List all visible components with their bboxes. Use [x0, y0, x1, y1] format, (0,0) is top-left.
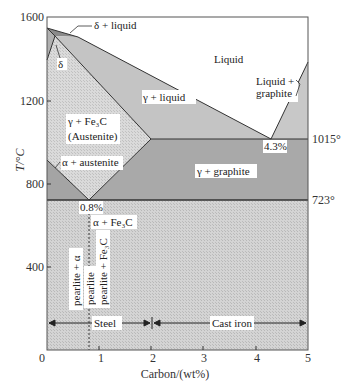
- y-tick-1200: 1200: [20, 94, 44, 108]
- y-tick-400: 400: [26, 260, 44, 274]
- label-liquid-graphite-line2: graphite: [256, 87, 292, 99]
- label-cast-iron: Cast iron: [212, 317, 253, 329]
- label-delta: δ: [58, 58, 63, 70]
- label-gamma-liquid: γ + liquid: [142, 91, 186, 103]
- y-axis-label: T/°C: [13, 148, 27, 172]
- x-tick-1: 1: [98, 351, 104, 365]
- x-tick-2: 2: [150, 351, 156, 365]
- y-axis: 1600 1200 800 400: [20, 10, 51, 274]
- label-pearlite-alpha: pearlite + α: [70, 255, 82, 306]
- label-delta-liquid: δ + liquid: [94, 19, 137, 31]
- label-liquid-graphite-line1: Liquid +: [256, 75, 294, 87]
- x-axis-label: Carbon/(wt%): [141, 367, 210, 381]
- x-tick-4: 4: [254, 351, 260, 365]
- label-4-3-percent: 4.3%: [264, 140, 287, 152]
- x-tick-3: 3: [201, 351, 207, 365]
- label-austenite-line2: (Austenite): [68, 130, 118, 143]
- label-pearlite-fe3c: pearlite + Fe₃C: [97, 238, 109, 305]
- label-0-8-percent: 0.8%: [80, 201, 103, 213]
- phase-diagram: 1600 1200 800 400 T/°C 0 1 2 3 4 5 Carbo…: [0, 0, 345, 384]
- annotation-723: 723°: [312, 193, 335, 207]
- annotation-1015: 1015°: [312, 132, 341, 146]
- label-liquid: Liquid: [214, 53, 244, 65]
- label-alpha-fe3c: α + Fe₃C: [93, 216, 133, 228]
- y-tick-1600: 1600: [20, 10, 44, 24]
- label-pearlite: pearlite: [84, 272, 96, 305]
- x-tick-0: 0: [39, 351, 45, 365]
- x-tick-5: 5: [305, 351, 311, 365]
- y-tick-800: 800: [26, 177, 44, 191]
- label-austenite-line1: γ + Fe₃C: [67, 115, 107, 127]
- label-alpha-austenite: α + austenite: [62, 156, 119, 168]
- label-gamma-graphite: γ + graphite: [196, 165, 250, 177]
- label-steel: Steel: [94, 317, 116, 329]
